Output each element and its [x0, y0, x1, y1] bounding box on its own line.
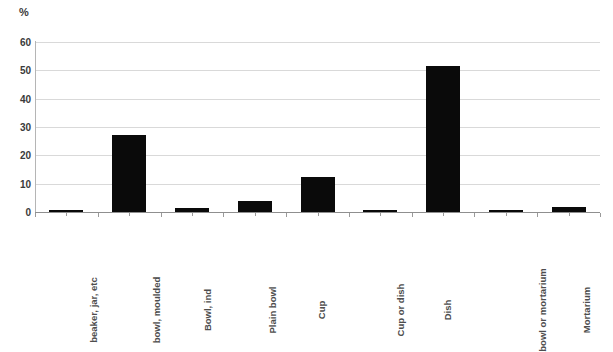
x-axis-label: Plain bowl [267, 287, 278, 334]
x-axis-label: bowl or mortarium [537, 268, 548, 351]
x-tick [35, 213, 36, 217]
x-axis-label: Cup [316, 301, 327, 319]
x-tick-minor [192, 213, 193, 216]
x-label-slot: Bowl, ind [185, 218, 199, 310]
bar [301, 177, 335, 212]
y-tick-label-30: 30 [1, 122, 31, 133]
x-tick [537, 213, 538, 217]
x-tick-minor [129, 213, 130, 216]
y-axis-tick-labels: 0102030405060 [0, 0, 31, 313]
x-tick-minor [255, 213, 256, 216]
x-tick [161, 213, 162, 217]
y-tick-label-50: 50 [1, 65, 31, 76]
y-tick-label-10: 10 [1, 178, 31, 189]
bar [363, 210, 397, 212]
x-tick-minor [66, 213, 67, 216]
x-tick [286, 213, 287, 217]
x-label-slot: bowl, moulded [122, 218, 136, 310]
x-label-slot: Cup [311, 218, 325, 310]
x-axis-label: Mortarium [581, 287, 592, 333]
x-tick [474, 213, 475, 217]
x-label-slot: Plain bowl [248, 218, 262, 310]
bar [49, 210, 83, 212]
x-label-slot: beaker, jar, etc [59, 218, 73, 310]
x-label-slot: Dish [436, 218, 450, 310]
x-tick-minor [380, 213, 381, 216]
x-axis-label: Bowl, ind [202, 289, 213, 331]
bar [238, 201, 272, 212]
x-axis-label: bowl, moulded [151, 277, 162, 344]
bar-series [35, 42, 600, 212]
bar [112, 135, 146, 212]
x-label-slot: Mortarium [562, 218, 576, 310]
x-axis-category-labels: beaker, jar, etcbowl, mouldedBowl, indPl… [35, 218, 600, 313]
bar [552, 207, 586, 212]
y-tick-label-60: 60 [1, 37, 31, 48]
x-tick-minor [569, 213, 570, 216]
x-tick-minor [506, 213, 507, 216]
y-tick-label-0: 0 [1, 207, 31, 218]
x-axis-label: Dish [442, 300, 453, 321]
x-tick [412, 213, 413, 217]
y-tick-label-20: 20 [1, 150, 31, 161]
bar [489, 210, 523, 212]
x-tick-minor [318, 213, 319, 216]
bar [426, 66, 460, 212]
x-label-slot: bowl or mortarium [499, 218, 513, 310]
x-axis-label: Cup or dish [396, 284, 407, 337]
x-tick-minor [443, 213, 444, 216]
x-tick [600, 213, 601, 217]
bar [175, 208, 209, 212]
x-tick [349, 213, 350, 217]
y-tick-label-40: 40 [1, 93, 31, 104]
x-tick [223, 213, 224, 217]
x-label-slot: Cup or dish [373, 218, 387, 310]
x-tick [98, 213, 99, 217]
x-axis-label: beaker, jar, etc [88, 277, 99, 343]
